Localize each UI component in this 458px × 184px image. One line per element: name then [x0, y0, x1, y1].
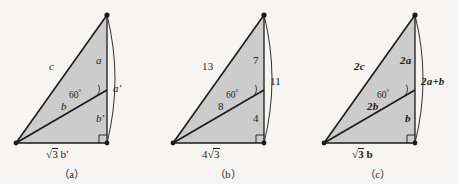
label-base-radicand-a: 3	[52, 148, 59, 160]
vertex-dot-bottom-right	[262, 141, 267, 146]
label-upper-vertical-c: 2a	[400, 55, 411, 66]
label-base-c: √3b	[352, 148, 373, 160]
label-base-suffix-a: b′	[60, 148, 68, 160]
angle-label-c: 60°	[377, 88, 389, 100]
vertex-dot-bottom-left	[171, 141, 176, 146]
label-hypotenuse-c: 2c	[354, 61, 365, 72]
vertex-dot-apex	[261, 12, 266, 17]
vertex-dot-bottom-left	[322, 141, 327, 146]
panel-b: 13 8 7 4 11 60° 4√3 （b）	[152, 0, 304, 184]
caption-c: （c）	[365, 166, 391, 181]
label-cevian-a: b	[61, 101, 67, 112]
label-arc-a: a′	[113, 83, 121, 94]
label-arc-b: 11	[270, 76, 281, 87]
angle-value-a: 60	[69, 90, 79, 100]
label-cevian-c: 2b	[367, 101, 378, 112]
caption-a: （a）	[59, 166, 85, 181]
label-base-a: √3b′	[46, 148, 69, 160]
angle-unit-a: °	[79, 88, 82, 96]
label-base-radicand-b: 3	[213, 148, 220, 160]
panel-c: 2c 2b 2a b 2a+b 60° √3b （c）	[306, 0, 458, 184]
angle-value-b: 60	[226, 90, 236, 100]
label-hypotenuse-b: 13	[202, 61, 213, 72]
angle-unit-c: °	[387, 88, 390, 96]
label-lower-vertical-c: b	[405, 113, 411, 124]
label-base-b: 4√3	[202, 148, 220, 160]
angle-label-a: 60°	[69, 88, 81, 100]
geometry-figure-set: c b a b′ a′ 60° √3b′ （a） 13 8 7 4 11 60°	[0, 0, 458, 184]
label-lower-vertical-b: 4	[253, 113, 259, 124]
label-arc-c: 2a+b	[421, 76, 445, 87]
label-hypotenuse-a: c	[49, 61, 54, 72]
arc-curve	[107, 15, 115, 143]
vertex-dot-apex	[104, 12, 109, 17]
label-lower-vertical-a: b′	[96, 113, 104, 124]
vertex-dot-bottom-right	[105, 141, 110, 146]
caption-b: （b）	[215, 166, 241, 181]
label-upper-vertical-a: a	[96, 55, 102, 66]
vertex-dot-bottom-left	[14, 141, 19, 146]
label-cevian-b: 8	[218, 101, 224, 112]
label-base-radicand-c: 3	[358, 148, 365, 160]
angle-label-b: 60°	[226, 88, 238, 100]
panel-a: c b a b′ a′ 60° √3b′ （a）	[0, 0, 152, 184]
vertex-dot-apex	[412, 12, 417, 17]
angle-value-c: 60	[377, 90, 387, 100]
label-base-suffix-c: b	[366, 148, 372, 160]
label-upper-vertical-b: 7	[253, 55, 259, 66]
vertex-dot-bottom-right	[413, 141, 418, 146]
angle-unit-b: °	[236, 88, 239, 96]
